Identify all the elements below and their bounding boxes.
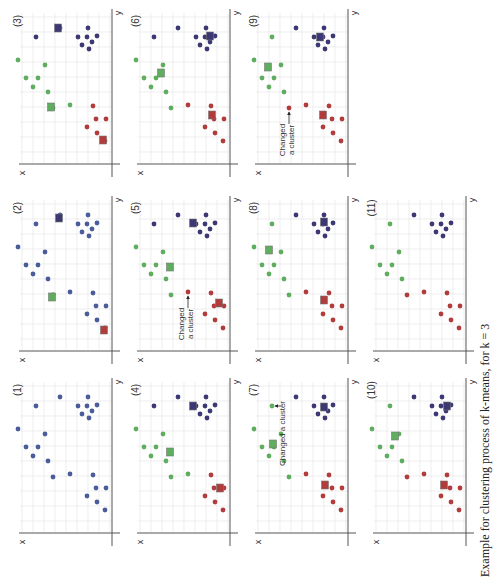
panel-label: (4): [130, 384, 141, 396]
data-point: [24, 445, 29, 450]
data-point: [434, 230, 439, 235]
data-point: [85, 404, 90, 409]
panel-10: xy(10): [366, 378, 477, 546]
data-point: [457, 508, 462, 513]
data-point: [68, 103, 73, 108]
data-point: [161, 432, 166, 437]
data-point: [282, 277, 287, 282]
x-axis-label: x: [253, 170, 263, 175]
data-point: [445, 473, 450, 478]
data-point: [91, 104, 96, 109]
panel-label: (2): [12, 202, 23, 214]
data-point: [95, 318, 100, 323]
arrow-head-icon: [186, 296, 190, 300]
data-point: [152, 35, 157, 40]
data-point: [330, 486, 335, 491]
data-point: [388, 404, 393, 409]
data-point: [260, 263, 265, 268]
data-point: [152, 222, 157, 227]
data-point: [91, 473, 96, 478]
data-point: [152, 404, 157, 409]
data-point: [205, 416, 210, 421]
centroid-marker: [392, 432, 399, 440]
data-point: [149, 454, 154, 459]
data-point: [213, 403, 218, 408]
data-point: [370, 427, 375, 432]
data-point: [252, 58, 257, 63]
data-point: [212, 486, 217, 491]
data-point: [87, 47, 92, 52]
y-axis-label: y: [231, 10, 241, 15]
data-point: [90, 40, 95, 45]
centroid-marker: [49, 293, 56, 301]
data-point: [327, 104, 332, 109]
data-point: [327, 473, 332, 478]
annotation-text: Changed: [278, 124, 287, 156]
data-point: [104, 117, 109, 122]
data-point: [205, 234, 210, 239]
panel-label: (11): [366, 199, 377, 216]
data-point: [412, 395, 417, 400]
centroid-marker: [100, 136, 107, 144]
data-point: [103, 508, 108, 513]
data-point: [430, 404, 435, 409]
panel-label: (9): [248, 15, 259, 27]
data-point: [94, 304, 99, 309]
panel-label: (10): [366, 381, 377, 399]
data-point: [213, 221, 218, 226]
data-point: [43, 63, 48, 68]
data-point: [209, 291, 214, 296]
data-point: [36, 76, 41, 81]
data-point: [213, 131, 218, 136]
data-point: [339, 139, 344, 144]
data-point: [331, 34, 336, 39]
data-point: [457, 326, 462, 331]
panel-1: xy(1): [12, 378, 123, 546]
data-point: [76, 222, 81, 227]
data-point: [449, 500, 454, 505]
centroid-marker: [48, 103, 55, 111]
data-point: [458, 486, 463, 491]
data-point: [221, 139, 226, 144]
data-point: [142, 76, 147, 81]
data-point: [331, 403, 336, 408]
data-point: [287, 293, 292, 298]
data-point: [439, 494, 444, 499]
data-point: [186, 103, 191, 108]
data-point: [270, 222, 275, 227]
data-point: [169, 475, 174, 480]
data-point: [378, 445, 383, 450]
panel-2: xy(2): [12, 196, 123, 364]
y-axis-label: y: [113, 379, 123, 384]
centroid-marker: [266, 246, 273, 254]
data-point: [316, 412, 321, 417]
data-point: [149, 85, 154, 90]
data-point: [16, 245, 21, 250]
data-point: [208, 227, 213, 232]
panel-label: (3): [12, 15, 23, 27]
data-point: [154, 263, 159, 268]
annotation-text: Changed: [177, 308, 186, 340]
data-point: [149, 272, 154, 277]
data-point: [439, 222, 444, 227]
data-point: [86, 395, 91, 400]
data-point: [209, 104, 214, 109]
data-point: [390, 445, 395, 450]
data-point: [370, 245, 375, 250]
data-point: [331, 500, 336, 505]
data-point: [267, 272, 272, 277]
x-axis-label: x: [135, 539, 145, 544]
data-point: [405, 475, 410, 480]
figure-caption: Example for clustering process of k-mean…: [478, 324, 493, 577]
data-point: [208, 40, 213, 45]
data-point: [204, 395, 209, 400]
data-point: [94, 117, 99, 122]
panel-7: xy(7)Changed a cluster: [248, 378, 359, 546]
data-point: [221, 326, 226, 331]
data-point: [36, 445, 41, 450]
data-point: [397, 250, 402, 255]
data-point: [68, 472, 73, 477]
data-point: [331, 221, 336, 226]
data-point: [95, 131, 100, 136]
